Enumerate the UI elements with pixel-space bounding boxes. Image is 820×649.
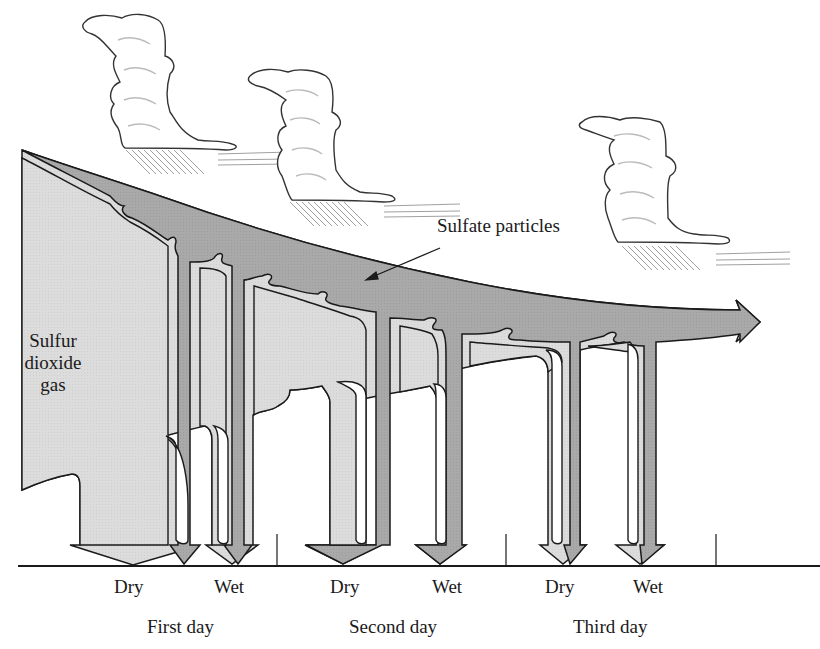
label-line: dioxide	[18, 352, 88, 374]
deposition-label-dry: Dry	[114, 577, 144, 596]
cloud-icon	[248, 69, 394, 202]
deposition-label-dry: Dry	[545, 577, 575, 596]
label-line: Sulfur	[18, 330, 88, 352]
day-label-first: First day	[147, 617, 214, 636]
deposition-label-wet: Wet	[432, 577, 462, 596]
rain-icon	[126, 150, 290, 174]
deposition-label-wet: Wet	[214, 577, 244, 596]
deposition-label-dry: Dry	[330, 577, 360, 596]
diagram: Sulfur dioxide gas Sulfate particles Dry…	[0, 0, 820, 649]
sulfate-particles-label: Sulfate particles	[437, 216, 560, 235]
cloud-icon	[83, 14, 236, 150]
sulfur-dioxide-label: Sulfur dioxide gas	[18, 330, 88, 396]
day-label-third: Third day	[573, 617, 647, 636]
rain-icon	[622, 246, 790, 270]
deposition-diagram-svg	[0, 0, 820, 649]
label-line: gas	[18, 374, 88, 396]
cloud-icon	[579, 117, 729, 245]
rain-icon	[290, 202, 460, 226]
day-label-second: Second day	[349, 617, 437, 636]
deposition-label-wet: Wet	[633, 577, 663, 596]
